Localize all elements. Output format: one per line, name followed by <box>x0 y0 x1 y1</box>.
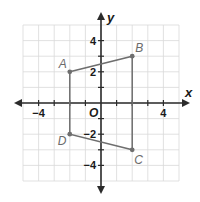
y-tick-label: −2 <box>83 128 96 140</box>
x-tick-label: 4 <box>160 107 167 119</box>
x-tick-label: −4 <box>32 107 45 119</box>
origin-label: O <box>89 106 99 120</box>
vertex-point-c <box>130 147 135 152</box>
vertex-label-d: D <box>58 134 67 148</box>
x-axis-right-arrow-icon <box>182 99 190 107</box>
y-axis-label: y <box>106 10 115 25</box>
vertex-point-d <box>67 132 72 137</box>
y-tick-label: 4 <box>90 35 97 47</box>
vertex-label-b: B <box>135 41 143 55</box>
vertex-label-c: C <box>134 153 143 167</box>
y-tick-label: −4 <box>83 159 96 171</box>
vertex-point-b <box>130 54 135 59</box>
y-axis-down-arrow-icon <box>97 186 105 194</box>
coordinate-plane: xyO−4442−2−4ABCD <box>0 0 200 202</box>
x-axis-label: x <box>184 85 193 100</box>
y-tick-label: 2 <box>90 66 96 78</box>
x-axis-left-arrow-icon <box>14 99 22 107</box>
y-axis-up-arrow-icon <box>97 12 105 20</box>
labels: xyO−4442−2−4ABCD <box>32 10 193 171</box>
vertex-label-a: A <box>58 57 67 71</box>
vertex-point-a <box>67 69 72 74</box>
